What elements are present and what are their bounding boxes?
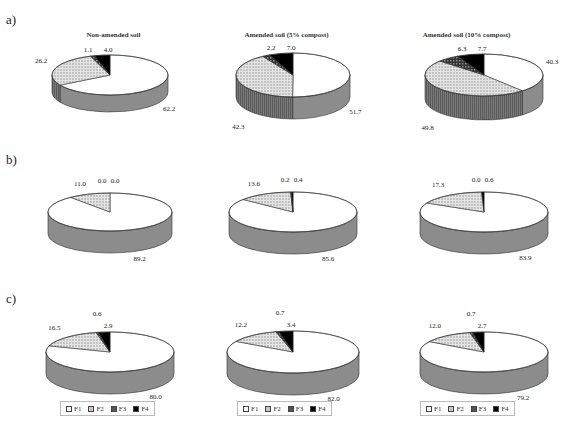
legend-swatch <box>133 406 139 412</box>
legend-swatch <box>88 406 94 412</box>
legend-item-f4: F4 <box>133 405 148 413</box>
slice-label-F4: 2.7 <box>478 322 487 330</box>
legend-swatch <box>448 406 454 412</box>
legend-label: F1 <box>251 405 258 413</box>
pie-chart-c-3: 79.212.00.72.7 <box>0 0 563 432</box>
legend-label: F2 <box>96 405 103 413</box>
legend-label: F1 <box>434 405 441 413</box>
legend-label: F2 <box>273 405 280 413</box>
legend-label: F4 <box>141 405 148 413</box>
legend-label: F1 <box>74 405 81 413</box>
legend-2: F1F2F3F4 <box>237 401 332 416</box>
legend-item-f2: F2 <box>265 405 280 413</box>
legend-swatch <box>66 406 72 412</box>
legend-swatch <box>310 406 316 412</box>
legend-item-f4: F4 <box>493 405 508 413</box>
legend-item-f3: F3 <box>471 405 486 413</box>
legend-item-f2: F2 <box>448 405 463 413</box>
legend-swatch <box>493 406 499 412</box>
legend-item-f4: F4 <box>310 405 325 413</box>
legend-swatch <box>471 406 477 412</box>
legend-3: F1F2F3F4 <box>420 401 515 416</box>
legend-item-f2: F2 <box>88 405 103 413</box>
slice-label-F2: 12.0 <box>429 322 442 330</box>
legend-1: F1F2F3F4 <box>60 401 155 416</box>
legend-item-f3: F3 <box>111 405 126 413</box>
legend-swatch <box>265 406 271 412</box>
slice-label-F1: 79.2 <box>517 394 530 402</box>
legend-swatch <box>288 406 294 412</box>
legend-item-f1: F1 <box>243 405 258 413</box>
legend-label: F3 <box>119 405 126 413</box>
legend-swatch <box>243 406 249 412</box>
legend-swatch <box>426 406 432 412</box>
legend-label: F4 <box>318 405 325 413</box>
legend-item-f1: F1 <box>426 405 441 413</box>
legend-label: F2 <box>456 405 463 413</box>
legend-label: F3 <box>296 405 303 413</box>
legend-label: F4 <box>501 405 508 413</box>
legend-item-f3: F3 <box>288 405 303 413</box>
legend-swatch <box>111 406 117 412</box>
legend-label: F3 <box>479 405 486 413</box>
slice-label-F3: 0.7 <box>467 310 476 318</box>
legend-item-f1: F1 <box>66 405 81 413</box>
